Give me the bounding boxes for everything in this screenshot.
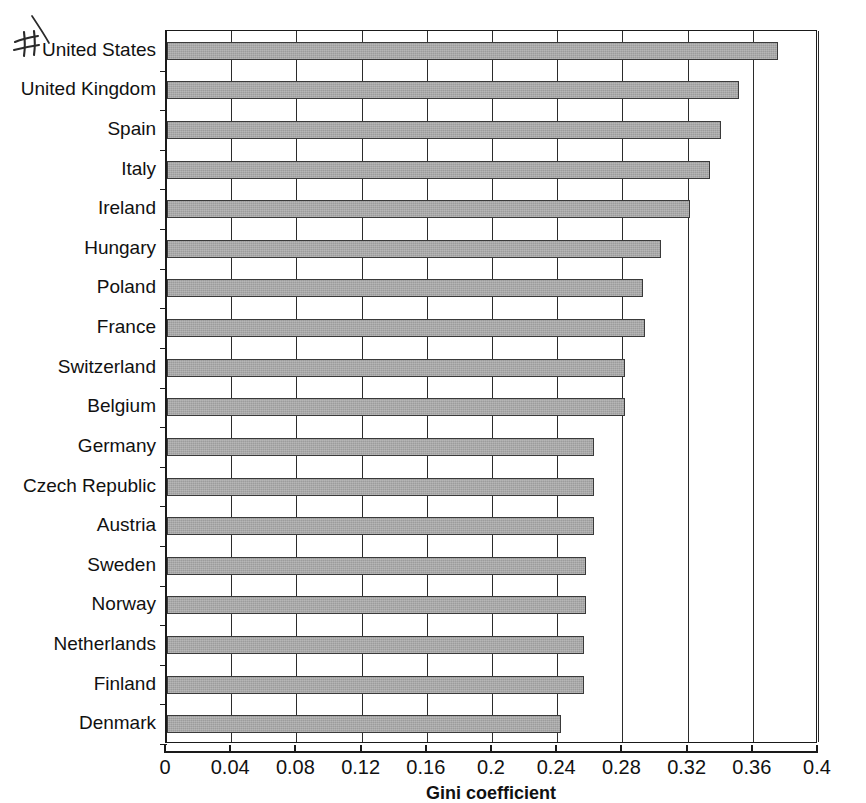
bar — [167, 200, 690, 218]
y-axis-tick — [160, 71, 167, 72]
y-axis-tick — [160, 189, 167, 190]
x-axis-tick-label: 0.08 — [276, 756, 315, 778]
x-axis-tick — [555, 745, 557, 753]
bar — [167, 517, 594, 535]
y-axis-label: Austria — [0, 515, 161, 534]
plot-area — [165, 30, 817, 743]
y-axis-tick — [160, 388, 167, 389]
x-axis-tick — [490, 745, 492, 753]
x-axis-tick — [229, 745, 231, 753]
y-axis-label: Spain — [0, 119, 161, 138]
y-axis-tick — [160, 665, 167, 666]
y-axis-label: Ireland — [0, 198, 161, 217]
x-axis-tick-label: 0.04 — [211, 756, 250, 778]
y-axis-tick — [160, 546, 167, 547]
x-axis-tick — [360, 745, 362, 753]
x-axis-tick — [751, 745, 753, 753]
y-axis-label: Switzerland — [0, 357, 161, 376]
bar — [167, 359, 625, 377]
y-axis-tick — [160, 506, 167, 507]
bar — [167, 636, 584, 654]
y-axis-label: Denmark — [0, 713, 161, 732]
gridline — [818, 31, 819, 742]
y-axis-label: Sweden — [0, 555, 161, 574]
y-axis-label: United States — [0, 40, 161, 59]
bar — [167, 81, 739, 99]
y-axis-tick — [160, 704, 167, 705]
y-axis-label: Netherlands — [0, 634, 161, 653]
x-axis-tick-label: 0.36 — [732, 756, 771, 778]
bar — [167, 240, 661, 258]
x-axis-tick — [620, 745, 622, 753]
y-axis-tick — [160, 625, 167, 626]
x-axis-tick-label: 0.2 — [477, 756, 505, 778]
bar — [167, 596, 586, 614]
bar — [167, 319, 645, 337]
bar — [167, 676, 584, 694]
bar — [167, 438, 594, 456]
x-axis-tick — [294, 745, 296, 753]
bar — [167, 478, 594, 496]
bar — [167, 279, 643, 297]
bar — [167, 398, 625, 416]
y-axis-tick — [160, 308, 167, 309]
y-axis-tick — [160, 586, 167, 587]
x-axis-tick — [164, 745, 166, 753]
x-axis-tick-label: 0.24 — [537, 756, 576, 778]
y-axis-tick — [160, 348, 167, 349]
y-axis-label: France — [0, 317, 161, 336]
y-axis-tick — [160, 269, 167, 270]
y-axis-tick — [160, 150, 167, 151]
x-axis-tick-label: 0.16 — [406, 756, 445, 778]
y-axis-label: United Kingdom — [0, 79, 161, 98]
x-axis-tick — [816, 745, 818, 753]
bar — [167, 42, 778, 60]
x-axis-tick-label: 0.28 — [602, 756, 641, 778]
y-axis-tick — [160, 427, 167, 428]
y-axis-tick — [160, 110, 167, 111]
x-axis-tick-label: 0 — [159, 756, 170, 778]
x-axis-tick — [425, 745, 427, 753]
bar — [167, 557, 586, 575]
y-axis-label: Norway — [0, 594, 161, 613]
bar — [167, 161, 710, 179]
x-axis-tick-label: 0.32 — [667, 756, 706, 778]
gridline — [753, 31, 754, 742]
y-axis-label: Belgium — [0, 396, 161, 415]
y-axis-tick — [160, 467, 167, 468]
x-axis-tick — [686, 745, 688, 753]
y-axis-label: Czech Republic — [0, 476, 161, 495]
y-axis-label: Germany — [0, 436, 161, 455]
y-axis-label: Hungary — [0, 238, 161, 257]
bar — [167, 121, 721, 139]
y-axis-tick — [160, 229, 167, 230]
y-axis-label: Finland — [0, 674, 161, 693]
y-axis-label: Italy — [0, 159, 161, 178]
x-axis-tick-label: 0.12 — [341, 756, 380, 778]
x-axis-tick-label: 0.4 — [803, 756, 831, 778]
y-axis-label: Poland — [0, 277, 161, 296]
x-axis-title: Gini coefficient — [165, 783, 817, 803]
bar — [167, 715, 561, 733]
